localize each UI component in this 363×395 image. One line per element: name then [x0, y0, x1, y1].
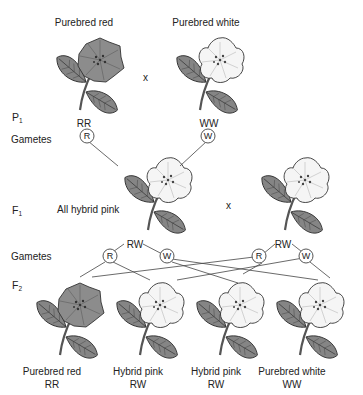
- f2-plant-rr: [31, 283, 104, 361]
- gamete-r-parent: R: [80, 129, 95, 144]
- parent-red-plant: [51, 38, 124, 116]
- f1-plant-right: [256, 158, 329, 236]
- diagram-artwork: [0, 0, 363, 395]
- parent-red-genotype: RR: [77, 119, 91, 129]
- generation-f1: F1: [12, 205, 22, 218]
- f2-plant-rw-2: [191, 283, 264, 361]
- f1-plant-left: [119, 158, 192, 236]
- gamete-r-f1-right: R: [252, 249, 267, 264]
- f2-phenotype-rw-2: Hybrid pink: [191, 367, 241, 377]
- gamete-w-f1-right: W: [299, 249, 314, 264]
- f2-phenotype-rr: Purebred red: [23, 367, 81, 377]
- f2-phenotype-ww: Purebred white: [258, 367, 325, 377]
- f2-genotype-rw-2: RW: [208, 380, 224, 390]
- generation-letter: P: [12, 111, 19, 123]
- generation-sub: 1: [18, 210, 22, 217]
- f1-left-genotype: RW: [127, 240, 143, 250]
- cross-symbol-middle: x: [226, 201, 231, 211]
- generation-sub: 2: [18, 285, 22, 292]
- generation-f2: F2: [12, 280, 22, 293]
- cross-symbol-top: x: [143, 73, 148, 83]
- f2-plant-rw-1: [111, 283, 184, 361]
- generation-p1: P1: [12, 112, 23, 125]
- f2-genotype-rw-1: RW: [130, 380, 146, 390]
- gametes-label-bottom: Gametes: [11, 252, 52, 262]
- parent-white-plant: [171, 38, 244, 116]
- f2-plant-ww: [271, 283, 344, 361]
- f1-phenotype-label: All hybrid pink: [57, 205, 119, 215]
- f2-genotype-rr: RR: [45, 380, 59, 390]
- gametes-label-top: Gametes: [11, 135, 52, 145]
- parent-red-title: Purebred red: [55, 18, 113, 28]
- f2-phenotype-rw-1: Hybrid pink: [113, 367, 163, 377]
- gamete-w-parent: W: [201, 129, 216, 144]
- parent-white-genotype: WW: [200, 119, 219, 129]
- generation-sub: 1: [19, 117, 23, 124]
- gamete-r-f1-left: R: [103, 249, 118, 264]
- f2-genotype-ww: WW: [283, 380, 302, 390]
- f1-right-genotype: RW: [275, 240, 291, 250]
- gamete-w-f1-left: W: [160, 249, 175, 264]
- parent-white-title: Purebred white: [172, 18, 239, 28]
